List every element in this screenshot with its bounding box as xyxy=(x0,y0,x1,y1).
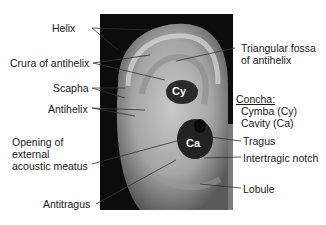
label-scapha: Scapha xyxy=(53,82,89,94)
label-lobule: Lobule xyxy=(243,183,275,195)
label-concha: Concha: Cymba (Cy) Cavity (Ca) xyxy=(236,93,297,129)
cavity-marker: Ca xyxy=(186,137,200,149)
label-triangular-fossa: Triangular fossa of antihelix xyxy=(241,42,316,66)
label-crura-of-antihelix: Crura of antihelix xyxy=(10,57,89,69)
ear-illustration xyxy=(100,14,233,210)
label-antihelix: Antihelix xyxy=(48,103,88,115)
label-opening-external-acoustic-meatus: Opening of external acoustic meatus xyxy=(12,136,88,172)
ear-photo: Cy Ca xyxy=(100,14,233,210)
label-tragus: Tragus xyxy=(243,135,275,147)
cymba-marker: Cy xyxy=(172,85,186,97)
label-intertragic-notch: Intertragic notch xyxy=(243,152,318,164)
label-helix: Helix xyxy=(52,22,75,34)
label-antitragus: Antitragus xyxy=(43,198,90,210)
